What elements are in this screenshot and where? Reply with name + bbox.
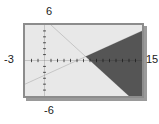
- y-min-label: -6: [44, 105, 54, 116]
- graph-screenshot: 6 -3 15 -6: [0, 0, 159, 124]
- x-max-label: 15: [146, 54, 158, 65]
- x-min-label: -3: [4, 54, 14, 65]
- plot-canvas: [25, 25, 142, 96]
- plot-surface: [25, 25, 142, 96]
- y-max-label: 6: [46, 6, 52, 17]
- plot-frame: [23, 23, 144, 98]
- solution-region-shading: [86, 31, 142, 96]
